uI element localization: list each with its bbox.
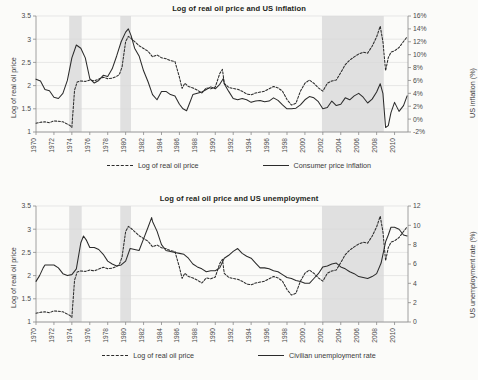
x-tick-label: 1988: [191, 328, 198, 343]
x-tick-label: 1986: [173, 328, 180, 343]
dashed-line-icon: [107, 165, 133, 166]
x-tick-label: 1980: [120, 138, 127, 153]
x-tick-label: 1984: [156, 138, 163, 153]
y2-tick-label: 10: [413, 222, 421, 229]
solid-line-icon: [263, 165, 289, 166]
y-tick-label: 3: [27, 226, 31, 233]
y2-tick-label: 0%: [413, 116, 423, 123]
x-tick-label: 2008: [371, 138, 378, 153]
x-tick-label: 1992: [227, 138, 234, 153]
y-tick-label: 2.5: [22, 249, 32, 256]
y2-tick-label: 0: [413, 318, 417, 325]
x-tick-label: 2006: [353, 138, 360, 153]
x-tick-label: 2002: [317, 138, 324, 153]
legend-label-oil-price-2: Log of real oil price: [133, 351, 194, 360]
x-tick-label: 1994: [245, 138, 252, 153]
x-tick-label: 2000: [299, 138, 306, 153]
x-tick-label: 1970: [30, 328, 37, 343]
y2-tick-label: 6%: [413, 77, 423, 84]
y2-tick-label: 4: [413, 280, 417, 287]
x-tick-label: 2006: [353, 328, 360, 343]
y2-tick-label: 8: [413, 241, 417, 248]
x-tick-label: 2004: [335, 138, 342, 153]
x-tick-label: 2004: [335, 328, 342, 343]
y-tick-label: 1: [27, 318, 31, 325]
y2-tick-label: 8%: [413, 64, 423, 71]
x-tick-label: 1980: [120, 328, 127, 343]
y-tick-label: 3.5: [22, 202, 32, 209]
x-tick-label: 1998: [281, 138, 288, 153]
y2-tick-label: 12%: [413, 38, 427, 45]
y-tick-label: 2: [27, 82, 31, 89]
legend-label-oil-price: Log of real oil price: [138, 161, 199, 170]
x-tick-label: 1972: [48, 138, 55, 153]
legend-item-oil-price-2: Log of real oil price: [102, 351, 194, 360]
x-tick-label: 1976: [84, 138, 91, 153]
y2-tick-label: 4%: [413, 90, 423, 97]
recession-band: [120, 16, 131, 132]
legend-label-unemployment: Civilian unemployment rate: [289, 351, 376, 360]
x-tick-label: 1970: [30, 138, 37, 153]
y-tick-label: 1.5: [22, 105, 32, 112]
legend-item-unemployment: Civilian unemployment rate: [258, 351, 376, 360]
x-tick-label: 1974: [66, 138, 73, 153]
x-tick-label: 1996: [263, 138, 270, 153]
y-tick-label: 1: [27, 128, 31, 135]
x-tick-label: 1996: [263, 328, 270, 343]
y-tick-label: 3: [27, 36, 31, 43]
y-axis-label-left-inflation: Log of real oil price: [9, 57, 18, 118]
recession-band: [322, 16, 384, 132]
recession-band: [69, 16, 82, 132]
x-tick-label: 1990: [209, 138, 216, 153]
y2-tick-label: -2%: [413, 128, 425, 135]
y-axis-label-right-inflation: US inflation (%): [468, 68, 477, 118]
y2-tick-label: 14%: [413, 25, 427, 32]
y-tick-label: 2: [27, 272, 31, 279]
x-tick-label: 1978: [102, 328, 109, 343]
chart-panel-unemployment: Log of real oil price and US unemploymen…: [0, 190, 478, 380]
x-tick-label: 1992: [227, 328, 234, 343]
y-tick-label: 2.5: [22, 59, 32, 66]
recession-band: [69, 206, 82, 322]
x-tick-label: 2008: [371, 328, 378, 343]
legend-item-oil-price: Log of real oil price: [107, 161, 199, 170]
chart-panel-inflation: Log of real oil price and US inflation 1…: [0, 0, 478, 190]
legend-label-inflation: Consumer price inflation: [294, 161, 372, 170]
y2-tick-label: 2: [413, 299, 417, 306]
x-tick-label: 2000: [299, 328, 306, 343]
x-tick-label: 1982: [138, 138, 145, 153]
x-tick-label: 1994: [245, 328, 252, 343]
x-tick-label: 1978: [102, 138, 109, 153]
y2-tick-label: 6: [413, 260, 417, 267]
y-tick-label: 1.5: [22, 295, 32, 302]
y-axis-label-right-unemployment: US unemployment rate (%): [468, 231, 477, 318]
x-tick-label: 1984: [156, 328, 163, 343]
y2-tick-label: 10%: [413, 51, 427, 58]
solid-line-icon: [258, 355, 284, 356]
legend-inflation: Log of real oil price Consumer price inf…: [0, 161, 478, 170]
y2-tick-label: 12: [413, 202, 421, 209]
x-tick-label: 2010: [389, 328, 396, 343]
y2-tick-label: 2%: [413, 103, 423, 110]
y2-tick-label: 16%: [413, 12, 427, 19]
x-tick-label: 1972: [48, 328, 55, 343]
figure-root: Log of real oil price and US inflation 1…: [0, 0, 478, 380]
x-tick-label: 2010: [389, 138, 396, 153]
legend-item-inflation: Consumer price inflation: [263, 161, 372, 170]
x-tick-label: 1986: [173, 138, 180, 153]
legend-unemployment: Log of real oil price Civilian unemploym…: [0, 351, 478, 360]
x-tick-label: 1974: [66, 328, 73, 343]
x-tick-label: 1976: [84, 328, 91, 343]
x-tick-label: 1982: [138, 328, 145, 343]
x-tick-label: 1998: [281, 328, 288, 343]
dashed-line-icon: [102, 355, 128, 356]
x-tick-label: 1988: [191, 138, 198, 153]
x-tick-label: 2002: [317, 328, 324, 343]
y-tick-label: 3.5: [22, 12, 32, 19]
y-axis-label-left-unemployment: Log of real oil price: [9, 247, 18, 308]
x-tick-label: 1990: [209, 328, 216, 343]
